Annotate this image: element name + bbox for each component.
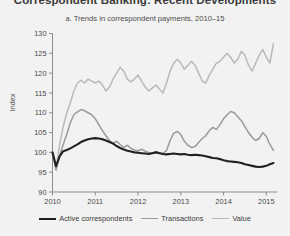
x-axis-ticks: 201020112012201320142015 <box>44 192 274 206</box>
svg-text:105: 105 <box>34 128 46 137</box>
line-chart-plot: 9095100105110115120125130 20102011201220… <box>0 0 290 236</box>
svg-text:130: 130 <box>34 29 46 38</box>
svg-text:2013: 2013 <box>173 197 189 206</box>
data-series-group <box>53 43 274 170</box>
legend-label: Active correspondents <box>59 214 132 223</box>
svg-text:115: 115 <box>35 89 47 98</box>
svg-text:125: 125 <box>34 49 46 58</box>
svg-text:95: 95 <box>38 168 46 177</box>
svg-text:2015: 2015 <box>258 197 274 206</box>
legend-item-value[interactable]: Value <box>212 214 250 223</box>
legend-swatch-icon <box>212 218 229 219</box>
svg-text:120: 120 <box>34 69 46 78</box>
svg-text:110: 110 <box>35 108 47 117</box>
svg-text:2010: 2010 <box>44 197 60 206</box>
svg-text:90: 90 <box>38 188 46 197</box>
legend-label: Value <box>232 214 250 223</box>
legend-item-transactions[interactable]: Transactions <box>141 214 203 223</box>
legend-item-active-correspondents[interactable]: Active correspondents <box>39 214 132 223</box>
figure-panel: Correspondent Banking: Recent Developmen… <box>0 0 290 236</box>
axis-lines <box>53 34 278 193</box>
svg-text:2011: 2011 <box>87 197 103 206</box>
legend-swatch-icon <box>39 218 56 220</box>
svg-text:100: 100 <box>34 148 46 157</box>
series-line-value <box>53 43 274 168</box>
svg-text:2012: 2012 <box>130 197 146 206</box>
legend-swatch-icon <box>141 218 158 219</box>
chart-legend: Active correspondentsTransactionsValue <box>0 214 290 223</box>
legend-label: Transactions <box>161 214 203 223</box>
svg-text:2014: 2014 <box>215 197 231 206</box>
y-axis-ticks: 9095100105110115120125130 <box>34 29 52 197</box>
